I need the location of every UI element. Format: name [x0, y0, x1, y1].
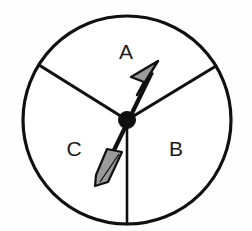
sector-label-b: B — [169, 137, 183, 160]
spinner-figure: A B C — [0, 0, 252, 231]
sector-label-c: C — [66, 137, 81, 160]
sector-label-a: A — [119, 40, 133, 63]
spinner-center-hub[interactable] — [119, 112, 136, 129]
spinner-wheel-graphic[interactable]: A B C — [0, 0, 252, 231]
